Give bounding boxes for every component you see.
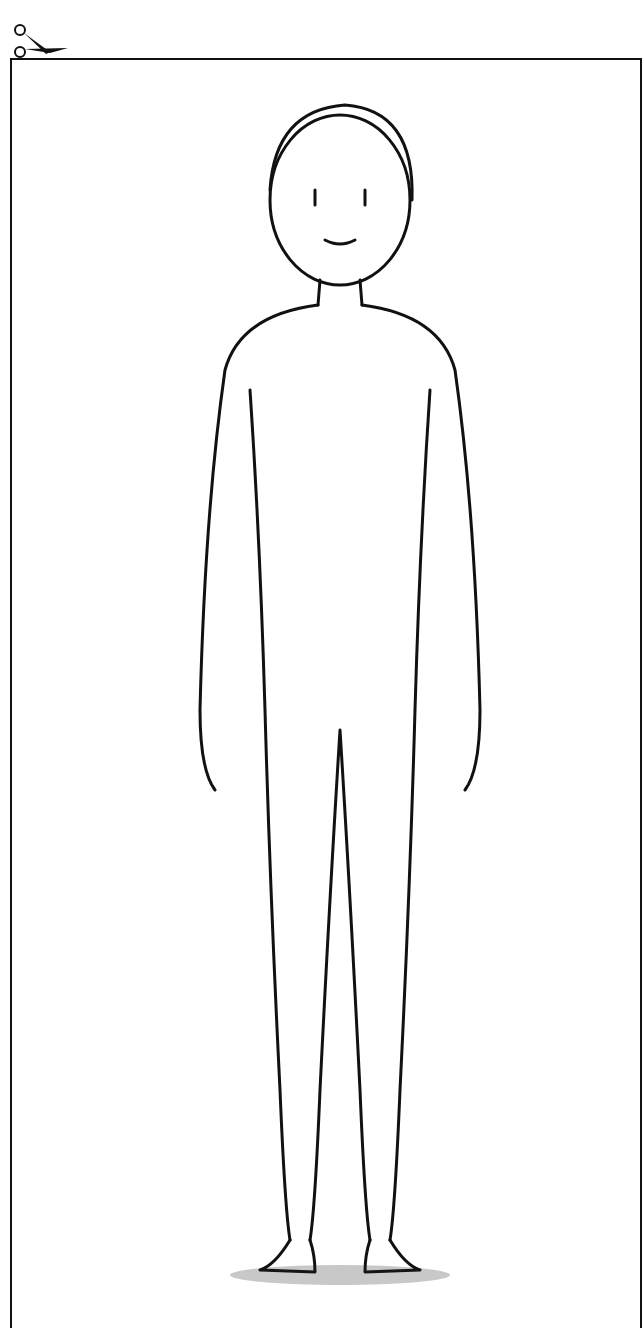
scissors-icon [10, 22, 70, 62]
figure-silhouette [180, 90, 500, 1290]
